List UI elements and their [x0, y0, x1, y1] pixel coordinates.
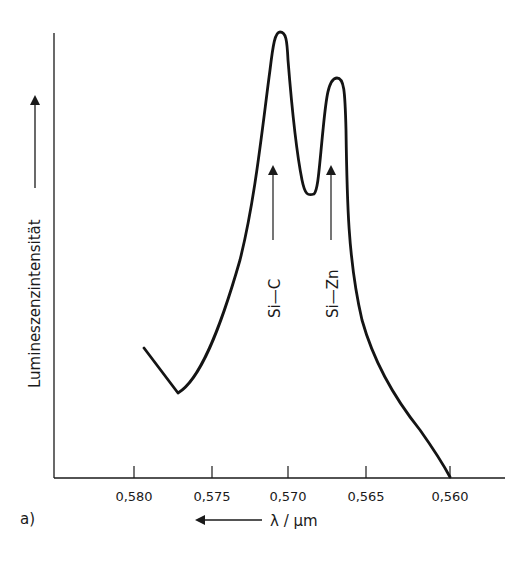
tick-label-0580: 0,580	[115, 489, 152, 504]
spectrum-chart: 0,580 0,575 0,570 0,565 0,560 λ / µm a) …	[0, 0, 531, 561]
x-ticks	[134, 466, 450, 478]
annotation-si-zn: Si—Zn	[324, 270, 342, 318]
x-axis-label: λ / µm	[270, 512, 318, 530]
y-axis-label: Lumineszenzintensität	[26, 219, 44, 388]
annotation-si-c: Si—C	[266, 279, 284, 318]
spectrum-curve	[144, 32, 450, 477]
tick-label-0570: 0,570	[269, 489, 306, 504]
tick-label-0565: 0,565	[347, 489, 384, 504]
panel-label: a)	[20, 510, 35, 528]
tick-label-0575: 0,575	[193, 489, 230, 504]
x-tick-labels: 0,580 0,575 0,570 0,565 0,560	[115, 489, 468, 504]
tick-label-0560: 0,560	[431, 489, 468, 504]
